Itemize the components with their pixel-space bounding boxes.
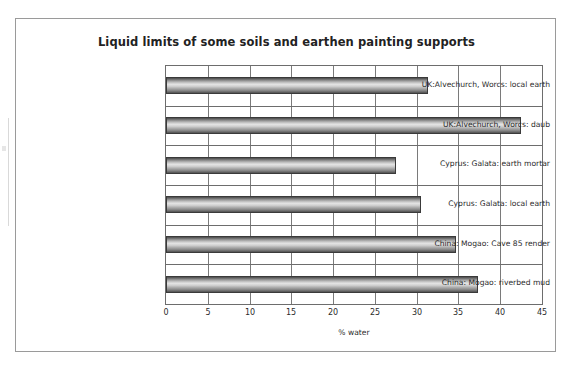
- horizontal-gridline: [166, 225, 542, 226]
- chart-title: Liquid limits of some soils and earthen …: [16, 35, 557, 49]
- x-tick-label: 30: [402, 308, 432, 317]
- plot-area: 051015202530354045 % water: [165, 65, 543, 305]
- y-axis-category-label: Cyprus: Galata: earth mortar: [407, 159, 555, 169]
- y-axis-category-label: Cyprus: Galata: local earth: [407, 199, 555, 209]
- y-axis-category-label: UK:Alvechurch, Worcs: daub: [407, 120, 555, 130]
- y-axis-category-label: China: Mogao: riverbed mud: [407, 278, 555, 288]
- x-tick-label: 15: [276, 308, 306, 317]
- x-tick-label: 20: [318, 308, 348, 317]
- x-tick-label: 0: [151, 308, 181, 317]
- horizontal-gridline: [166, 106, 542, 107]
- x-tick-label: 10: [235, 308, 265, 317]
- x-tick-label: 35: [443, 308, 473, 317]
- horizontal-gridline: [166, 264, 542, 265]
- horizontal-gridline: [166, 145, 542, 146]
- y-axis-category-label: China: Mogao: Cave 85 render: [407, 239, 555, 249]
- x-tick-label: 25: [360, 308, 390, 317]
- bar: [166, 77, 428, 94]
- bar: [166, 157, 396, 174]
- scan-artifact-line: [8, 118, 9, 226]
- x-tick-label: 40: [485, 308, 515, 317]
- x-axis-title: % water: [166, 328, 542, 337]
- bar: [166, 196, 421, 213]
- x-tick-label: 45: [527, 308, 557, 317]
- horizontal-gridline: [166, 185, 542, 186]
- scan-artifact-speck: [2, 146, 6, 151]
- y-axis-category-label: UK:Alvechurch, Worcs: local earth: [407, 80, 555, 90]
- x-tick-label: 5: [193, 308, 223, 317]
- figure-frame: Liquid limits of some soils and earthen …: [15, 18, 556, 352]
